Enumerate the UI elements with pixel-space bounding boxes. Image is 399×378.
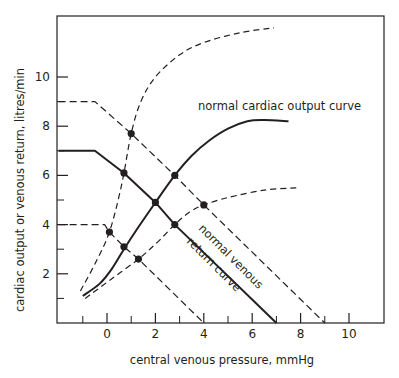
normal-venous-return-curve [59, 151, 277, 323]
equilibrium-dot [106, 228, 113, 235]
x-tick-label: 4 [200, 327, 208, 341]
y-tick-label: 6 [42, 168, 50, 182]
y-axis-title: cardiac output or venous return, litres/… [13, 68, 27, 312]
curves [59, 28, 325, 323]
y-tick-label: 10 [35, 70, 50, 84]
x-axis-ticks: 0246810 [83, 313, 357, 341]
equilibrium-dot [171, 221, 178, 228]
equilibrium-dot [128, 130, 135, 137]
equilibrium-dot [135, 255, 142, 262]
increased-cardiac-output-curve [80, 28, 274, 291]
equilibrium-dot [171, 172, 178, 179]
x-axis-title: central venous pressure, mmHg [130, 353, 314, 367]
x-tick-label: 6 [248, 327, 256, 341]
y-axis-ticks: 246810 [35, 70, 68, 298]
y-tick-label: 2 [42, 267, 50, 281]
annotation-normal-cardiac-output: normal cardiac output curve [198, 99, 361, 113]
equilibrium-dot [200, 201, 207, 208]
equilibrium-dot [152, 199, 159, 206]
cardiac-output-venous-return-chart: 0246810 246810 central venous pressure, … [0, 0, 399, 378]
equilibrium-dot [120, 169, 127, 176]
x-tick-label: 8 [297, 327, 305, 341]
y-tick-label: 8 [42, 119, 50, 133]
x-tick-label: 2 [152, 327, 160, 341]
x-tick-label: 10 [341, 327, 356, 341]
increased-venous-return-curve [59, 102, 325, 323]
y-tick-label: 4 [42, 218, 50, 232]
x-tick-label: 0 [103, 327, 111, 341]
equilibrium-dot [120, 243, 127, 250]
normal-cardiac-output-curve [83, 120, 289, 296]
